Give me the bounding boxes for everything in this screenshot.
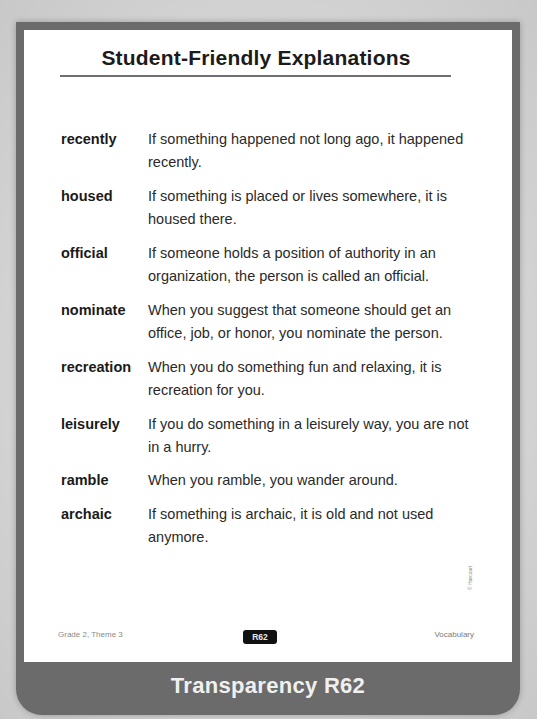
vocabulary-word: ramble [61,469,148,492]
vocabulary-definition: If someone holds a position of authority… [148,242,481,288]
vocabulary-entry: archaic If something is archaic, it is o… [61,503,481,549]
vocabulary-word: leisurely [61,413,148,459]
page-number-badge: R62 [243,630,277,644]
vocabulary-entry: leisurely If you do something in a leisu… [61,413,481,459]
vocabulary-word: nominate [61,299,148,345]
vocabulary-word: housed [61,185,148,231]
vocabulary-entry: recreation When you do something fun and… [61,356,481,402]
vocabulary-definition: If something happened not long ago, it h… [148,128,481,174]
vocabulary-card [24,30,512,662]
footer-section-label: Vocabulary [405,630,474,639]
vocabulary-word: recreation [61,356,148,402]
transparency-banner: Transparency R62 [16,662,520,712]
vocabulary-entry: housed If something is placed or lives s… [61,185,481,231]
vocabulary-entry: nominate When you suggest that someone s… [61,299,481,345]
title-underline [60,75,451,77]
vocabulary-word: archaic [61,503,148,549]
vocabulary-entry: official If someone holds a position of … [61,242,481,288]
vocabulary-definition: When you ramble, you wander around. [148,469,481,492]
footer-grade-theme: Grade 2, Theme 3 [58,630,123,639]
vocabulary-entry: recently If something happened not long … [61,128,481,174]
vocabulary-definition: If you do something in a leisurely way, … [148,413,481,459]
vocabulary-word: recently [61,128,148,174]
vocabulary-definition: When you suggest that someone should get… [148,299,481,345]
page-title: Student-Friendly Explanations [0,46,512,70]
vocabulary-entry: ramble When you ramble, you wander aroun… [61,469,481,492]
copyright-notice: © Harcourt [467,566,473,590]
vocabulary-definition: If something is placed or lives somewher… [148,185,481,231]
vocabulary-definition: If something is archaic, it is old and n… [148,503,481,549]
vocabulary-definition: When you do something fun and relaxing, … [148,356,481,402]
vocabulary-word: official [61,242,148,288]
